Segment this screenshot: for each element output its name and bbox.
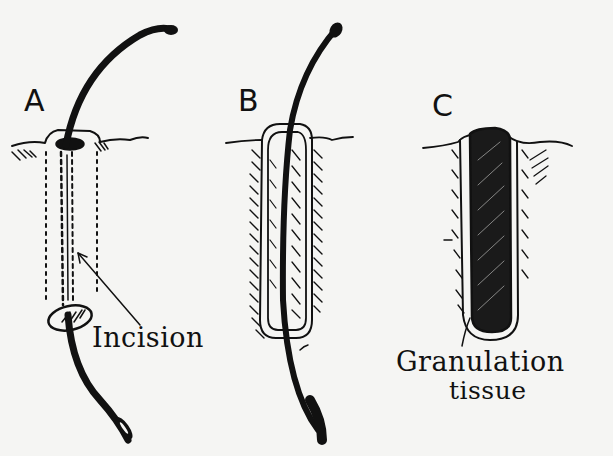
illustration-canvas: A B C Incision Granulation tissue — [0, 0, 613, 456]
panel-c-drawing — [423, 128, 572, 346]
caption-granulation: Granulation — [396, 346, 565, 377]
caption-incision: Incision — [92, 322, 204, 353]
panel-label-a: A — [24, 83, 45, 118]
caption-tissue: tissue — [449, 376, 527, 405]
panel-label-c: C — [432, 88, 453, 123]
panel-label-b: B — [238, 83, 259, 118]
